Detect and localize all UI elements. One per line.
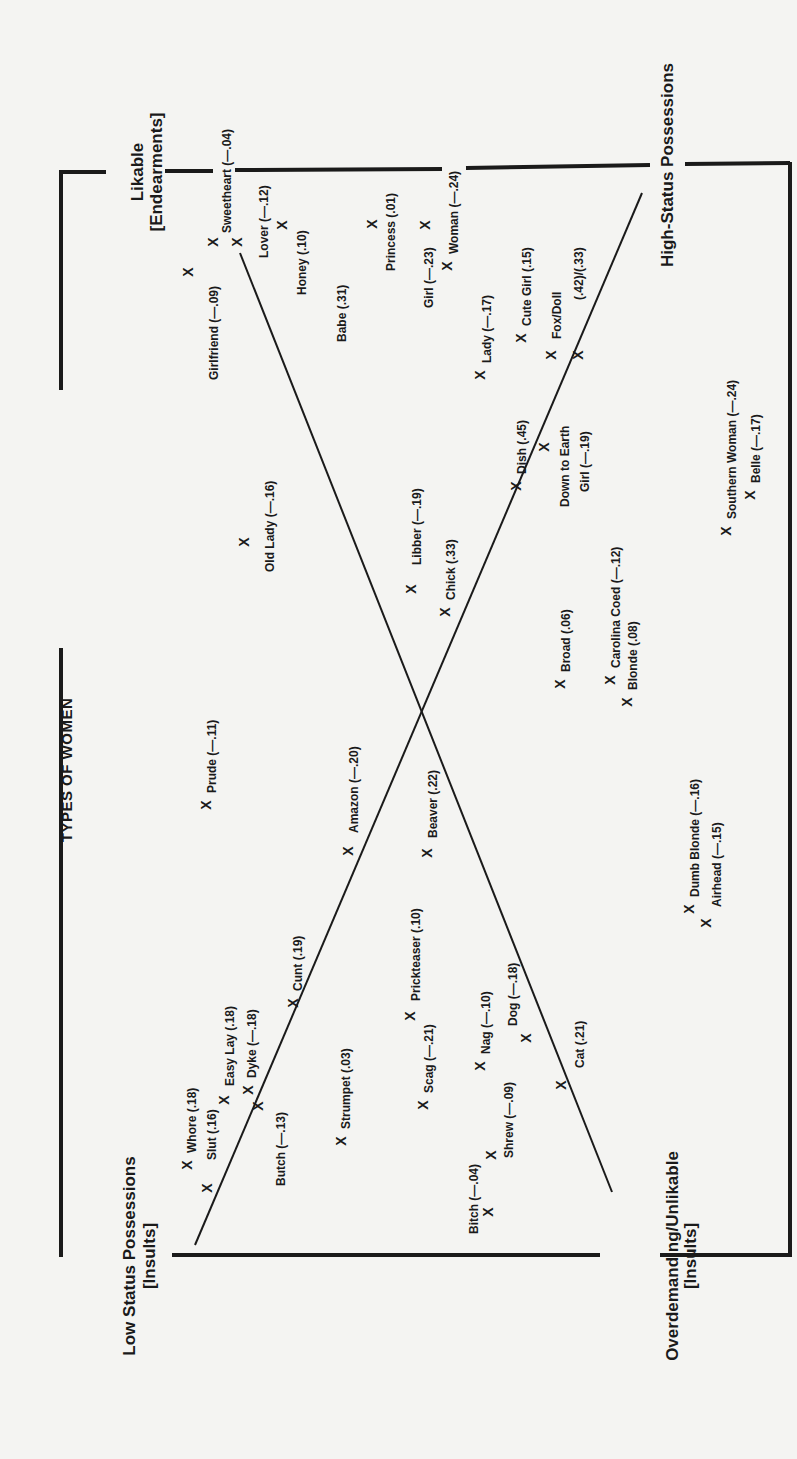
term-dumb-blonde: X Dumb Blonde (—.16) <box>681 779 702 914</box>
term-beaver: X Beaver (.22) <box>419 770 440 858</box>
term-label: Babe (.31) <box>335 285 349 342</box>
x-marker-icon: X <box>681 904 697 914</box>
x-marker-icon: X <box>333 1136 349 1146</box>
term-label: Butch (—.13) <box>274 1112 288 1186</box>
term-label: Cunt (.19) <box>291 936 305 991</box>
term-label: Shrew (—.09) <box>502 1082 516 1158</box>
axis-top-sublabel: [Endearments] <box>147 112 166 231</box>
term-label: Dish (.45) <box>515 420 529 474</box>
term-label: Nag (—.10) <box>479 991 493 1054</box>
term-prude: X Prude (—.11) <box>198 720 219 810</box>
x-marker-icon: X <box>602 675 618 685</box>
x-marker-icon: X <box>198 800 214 810</box>
term-label: Fox/Doll <box>550 292 564 339</box>
term-label: Lady (—.17) <box>480 295 494 363</box>
x-marker-icon: X <box>415 1100 431 1110</box>
term-label: Amazon (—.20) <box>347 746 361 833</box>
term-lover: X Lover (—.12) <box>229 185 271 258</box>
term-girl: X Girl (—.23) <box>417 220 436 308</box>
term-label: Libber (—.19) <box>410 488 424 565</box>
term-label: Prickteaser (.10) <box>409 908 423 1001</box>
term-label: Slut (.16) <box>205 1109 219 1160</box>
x-marker-icon: X <box>553 1080 569 1090</box>
term-label: Airhead (—.15) <box>710 822 724 907</box>
term-libber: X Libber (—.19) <box>403 488 424 593</box>
term-amazon: X Amazon (—.20) <box>340 746 361 855</box>
term-label: Cat (.21) <box>573 1021 587 1068</box>
x-marker-icon: X <box>483 1150 499 1160</box>
term-label: Prude (—.11) <box>205 720 219 793</box>
term-label: (.42)/(.33) <box>572 247 586 300</box>
term-dish: X Dish (.45) <box>508 420 529 491</box>
term-label: Dumb Blonde (—.16) <box>688 779 702 897</box>
x-marker-icon: X <box>536 442 552 452</box>
term-label: Strumpet (.03) <box>339 1048 353 1129</box>
term-label: Chick (.33) <box>444 539 458 600</box>
term-slut: X Slut (.16) <box>199 1109 219 1192</box>
axis-left-sublabel: [Insults] <box>140 1223 159 1289</box>
term-label: Woman (—.24) <box>447 171 461 254</box>
term-belle: X Belle (—.17) <box>742 414 763 499</box>
x-marker-icon: X <box>472 1061 488 1071</box>
term-old-lady: X Old Lady (—.16) <box>236 481 277 572</box>
axis-right-label: High-Status Possessions <box>658 63 677 267</box>
term-label: Carolina Coed (—.12) <box>609 547 623 668</box>
frame-top-mid3 <box>466 165 650 168</box>
term-label: Beaver (.22) <box>426 770 440 838</box>
term-label: Girlfriend (—.09) <box>207 286 221 380</box>
term-down-to-earth-girl: X Down to Earth Girl (—.19) <box>536 426 592 507</box>
x-marker-icon: X <box>179 1160 195 1170</box>
term-nag: X Nag (—.10) <box>472 991 493 1070</box>
x-marker-icon: X <box>274 220 290 230</box>
term-dog: X Dog (—.18) <box>506 963 534 1043</box>
term-cute-girl: X Cute Girl (.15) <box>513 247 534 342</box>
axis-top-label: Likable <box>128 143 147 202</box>
x-marker-icon: X <box>229 237 245 247</box>
term-label: Scag (—.21) <box>422 1024 436 1093</box>
frame-top-mid2 <box>235 169 442 170</box>
term-label: Whore (.18) <box>185 1088 199 1153</box>
x-marker-icon: X <box>402 1011 418 1021</box>
x-marker-icon: X <box>285 998 301 1008</box>
x-marker-icon: X <box>718 526 734 536</box>
x-marker-icon: X <box>742 490 758 500</box>
term-shrew: X Shrew (—.09) <box>483 1082 516 1160</box>
x-marker-icon: X <box>513 333 529 343</box>
axis-left-label: Low Status Possessions <box>120 1156 139 1355</box>
x-marker-icon: X <box>180 267 196 277</box>
term-dyke: X Dyke (—.18) <box>240 1009 259 1094</box>
x-marker-icon: X <box>518 1033 534 1043</box>
term-butch: X Butch (—.13) <box>250 1101 288 1186</box>
x-marker-icon: X <box>417 220 433 230</box>
frame-top-right <box>685 163 790 164</box>
term-broad: X Broad (.06) <box>552 609 573 688</box>
x-marker-icon: X <box>205 237 221 247</box>
term-girlfriend: X Girlfriend (—.09) <box>180 267 221 380</box>
x-marker-icon: X <box>250 1101 266 1111</box>
x-marker-icon: X <box>216 1095 232 1105</box>
term-strumpet: X Strumpet (.03) <box>333 1048 353 1145</box>
axis-bottom-sublabel: [Insults] <box>681 1223 700 1289</box>
term-label: Girl (—.19) <box>578 431 592 492</box>
term-southern-woman: X Southern Woman (—.24) <box>718 380 739 536</box>
term-label: Southern Woman (—.24) <box>725 380 739 519</box>
term-cunt: X Cunt (.19) <box>285 936 305 1008</box>
term-label: Sweetheart (—.04) <box>220 129 234 233</box>
x-marker-icon: X <box>552 679 568 689</box>
x-marker-icon: X <box>619 697 635 707</box>
term-scag: X Scag (—.21) <box>415 1024 436 1109</box>
term-sweetheart: X Sweetheart (—.04) <box>205 129 234 247</box>
term-honey: X Honey (.10) <box>274 220 309 295</box>
term-label: Honey (.10) <box>295 230 309 295</box>
term-prickteaser: X Prickteaser (.10) <box>402 908 423 1020</box>
term-label: Girl (—.23) <box>422 247 436 308</box>
term-woman: X Woman (—.24) <box>439 171 461 271</box>
x-marker-icon: X <box>480 1207 496 1217</box>
term-princess: X Princess (.01) <box>364 193 398 271</box>
x-marker-icon: X <box>437 607 453 617</box>
x-marker-icon: X <box>340 846 356 856</box>
types-of-women-diagram: TYPES OF WOMEN Likable [Endearments] Hig… <box>0 0 797 1459</box>
x-marker-icon: X <box>508 481 524 491</box>
term-label: Dog (—.18) <box>506 963 520 1026</box>
x-marker-icon: X <box>240 1085 256 1095</box>
